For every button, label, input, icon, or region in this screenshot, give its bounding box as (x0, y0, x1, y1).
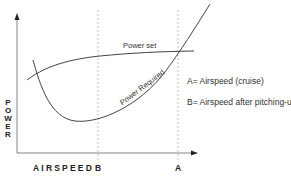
power-set-curve (27, 51, 194, 80)
y-axis-label: P O W E R (3, 99, 13, 139)
x-axis-label: AIRSPEED (33, 163, 94, 173)
y-axis-letter: R (3, 131, 13, 139)
legend-a: A= Airspeed (cruise) (187, 76, 264, 86)
y-axis-arrow-icon (15, 13, 20, 20)
power-set-label: Power set (123, 41, 156, 50)
x-axis-arrow-icon (191, 151, 198, 156)
legend-b: B= Airspeed after pitching-up (187, 97, 291, 107)
marker-a-label: A (175, 163, 181, 173)
marker-b-label: B (95, 163, 101, 173)
